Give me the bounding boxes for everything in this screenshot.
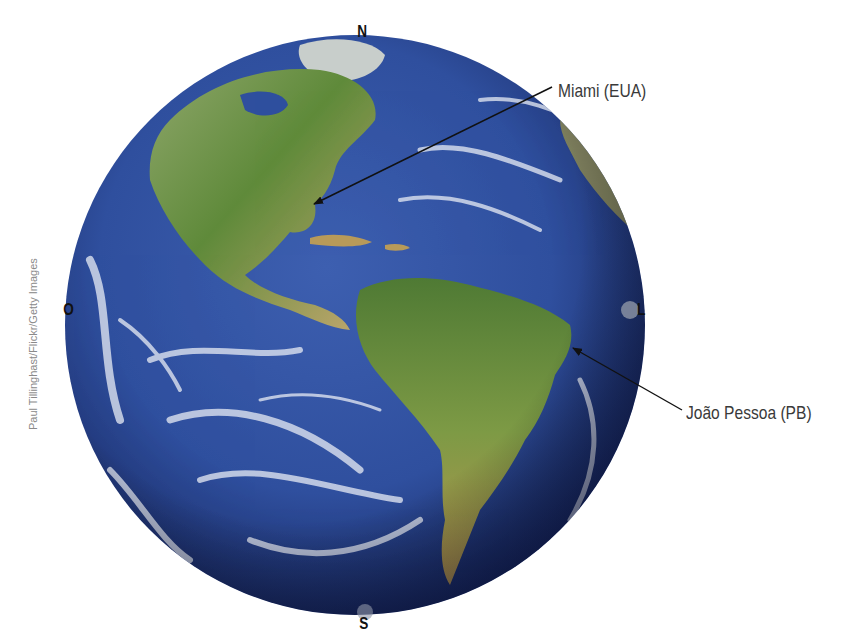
globe-figure: N S O L Miami (EUA) João Pessoa (PB) Pau… xyxy=(0,0,844,638)
compass-south: S xyxy=(359,614,368,634)
compass-north: N xyxy=(357,22,367,42)
photo-credit: Paul Tillinghast/Flickr/Getty Images xyxy=(27,258,39,430)
compass-west: O xyxy=(63,300,74,320)
globe-illustration xyxy=(0,0,844,638)
label-joao-pessoa: João Pessoa (PB) xyxy=(686,402,812,424)
compass-east: L xyxy=(637,300,645,320)
label-miami: Miami (EUA) xyxy=(558,80,646,102)
